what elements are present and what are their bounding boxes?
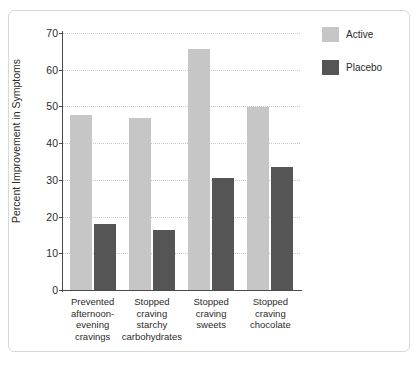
legend-swatch-active-icon <box>322 27 339 42</box>
chart-legend: Active Placebo <box>322 27 408 93</box>
y-tick-label: 50 <box>32 101 58 111</box>
legend-label-placebo: Placebo <box>346 62 382 73</box>
y-tick-label: 30 <box>32 175 58 185</box>
y-tick-label: 70 <box>32 28 58 38</box>
bar-active-2 <box>129 118 151 290</box>
y-tick-label: 20 <box>32 212 58 222</box>
y-tick-label: 60 <box>32 65 58 75</box>
bar-placebo-1 <box>94 224 116 290</box>
x-category-label-4: Stopped craving chocolate <box>233 296 308 331</box>
gridline <box>63 33 300 34</box>
y-axis-tick-labels: 010203040506070 <box>30 33 58 290</box>
legend-item-active[interactable]: Active <box>322 27 408 42</box>
bar-placebo-2 <box>153 230 175 290</box>
bar-active-3 <box>188 49 210 290</box>
bar-placebo-4 <box>271 167 293 290</box>
legend-swatch-placebo-icon <box>322 60 339 75</box>
x-axis-line <box>62 290 302 291</box>
plot-area <box>63 33 300 290</box>
bar-active-1 <box>70 115 92 290</box>
legend-label-active: Active <box>346 29 373 40</box>
y-tick-label: 0 <box>32 285 58 295</box>
bar-active-4 <box>247 107 269 290</box>
bar-placebo-3 <box>212 178 234 290</box>
y-axis-title: Percent Improvement in Symptoms <box>10 51 22 231</box>
chart-figure: 010203040506070 Prevented afternoon- eve… <box>0 0 418 369</box>
y-tick-label: 40 <box>32 138 58 148</box>
y-tick-label: 10 <box>32 248 58 258</box>
y-tick-mark <box>59 290 63 291</box>
gridline <box>63 70 300 71</box>
legend-item-placebo[interactable]: Placebo <box>322 60 408 75</box>
